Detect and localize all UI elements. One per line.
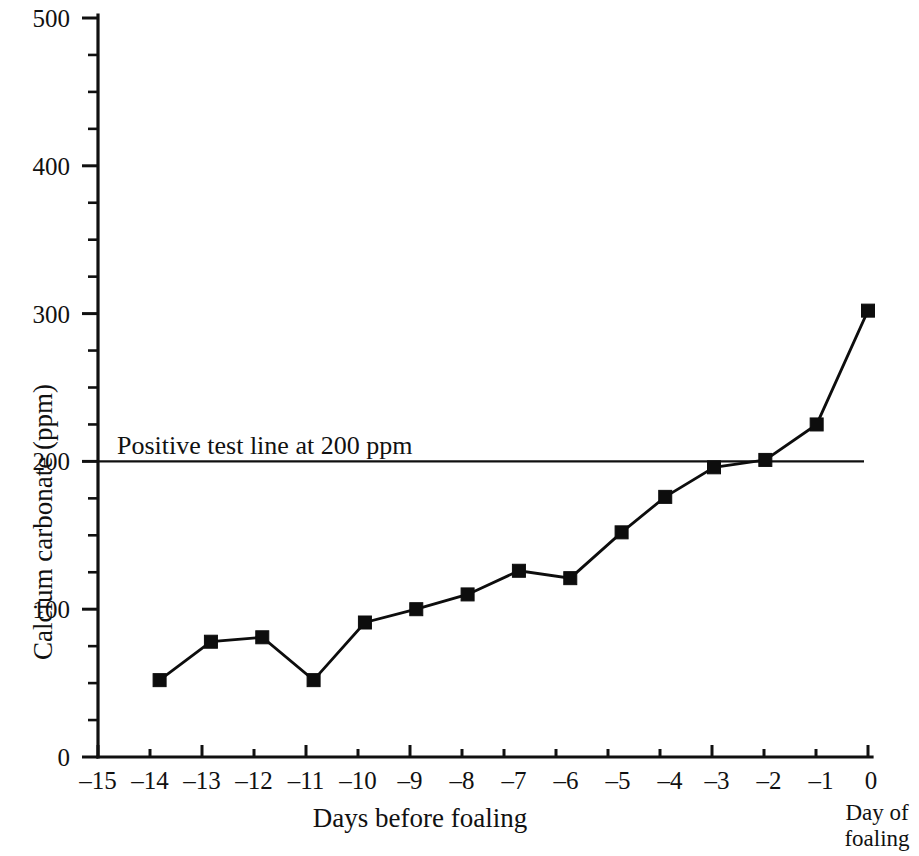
x-axis-title: Days before foaling [313, 805, 527, 832]
x-tick-label-minus7: –7 [502, 768, 527, 793]
data-point [759, 453, 772, 466]
data-point [615, 526, 628, 539]
data-point [512, 564, 525, 577]
data-point [708, 461, 721, 474]
data-point [410, 603, 423, 616]
data-point [862, 304, 875, 317]
y-tick-label-500: 500 [8, 6, 70, 31]
data-point [256, 631, 269, 644]
x-tick-label-minus12: –12 [235, 768, 273, 793]
data-point [810, 418, 823, 431]
data-line [160, 311, 868, 681]
data-point [153, 674, 166, 687]
data-point [307, 674, 320, 687]
data-point [659, 490, 672, 503]
x-axis-ticks [98, 745, 868, 757]
x-tick-label-minus13: –13 [183, 768, 221, 793]
x-tick-label-minus10: –10 [339, 768, 377, 793]
data-markers [153, 304, 874, 687]
data-point [461, 588, 474, 601]
x-tick-label-minus11: –11 [288, 768, 325, 793]
chart-figure: 0 100 200 300 400 500 –15 –14 –13 –12 –1… [0, 0, 919, 856]
x-tick-label-minus2: –2 [757, 768, 782, 793]
x-tick-label-minus6: –6 [554, 768, 579, 793]
day-of-foaling-line1: Day of [845, 800, 908, 825]
y-axis-title: Calcium carbonate (ppm) [30, 384, 57, 660]
y-tick-label-400: 400 [8, 153, 70, 178]
chart-canvas [0, 0, 919, 856]
y-tick-label-300: 300 [8, 301, 70, 326]
y-tick-label-0: 0 [8, 745, 70, 770]
x-tick-label-minus8: –8 [450, 768, 475, 793]
x-tick-label-minus14: –14 [131, 768, 169, 793]
x-tick-label-minus5: –5 [606, 768, 631, 793]
threshold-label: Positive test line at 200 ppm [117, 433, 412, 459]
x-tick-label-0: 0 [865, 768, 878, 793]
data-point [358, 616, 371, 629]
day-of-foaling-line2: foaling [844, 826, 909, 851]
x-tick-label-minus9: –9 [398, 768, 423, 793]
x-tick-label-minus3: –3 [705, 768, 730, 793]
x-tick-label-minus15: –15 [79, 768, 117, 793]
data-point [564, 572, 577, 585]
x-tick-label-minus4: –4 [658, 768, 683, 793]
day-of-foaling-note: Day offoaling [844, 800, 909, 852]
data-point [204, 635, 217, 648]
x-tick-label-minus1: –1 [809, 768, 834, 793]
